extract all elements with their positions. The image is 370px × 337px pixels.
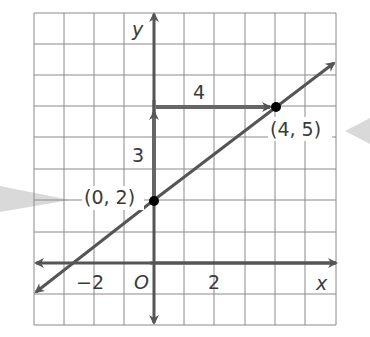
point-4-5 — [271, 102, 281, 112]
tick-label-2: 2 — [208, 271, 220, 293]
point-0-2 — [149, 196, 159, 206]
point-label-0-2: (0, 2) — [84, 186, 135, 208]
rise-label: 3 — [132, 144, 144, 166]
y-axis-label: y — [131, 18, 144, 40]
run-label: 4 — [193, 81, 205, 103]
x-axis-label: x — [315, 272, 328, 294]
callout-pointer-left — [0, 186, 70, 212]
tick-label-neg2: −2 — [76, 271, 104, 293]
callout-pointer-right — [345, 118, 370, 144]
origin-label: O — [134, 271, 149, 293]
point-label-4-5: (4, 5) — [270, 118, 321, 140]
coordinate-graph: y x O −2 2 (0, 2) (4, 5) 3 4 — [0, 0, 370, 337]
